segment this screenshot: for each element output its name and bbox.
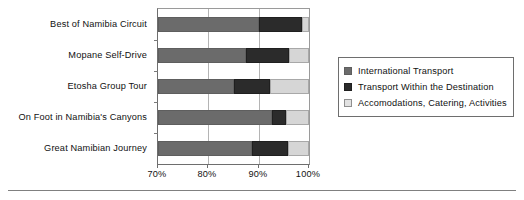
category-axis-labels: Best of Namibia CircuitMopane Self-Drive… [0,8,152,163]
bar-5 [158,141,309,156]
bar-segment [234,79,271,94]
category-label: Etosha Group Tour [0,81,147,91]
x-axis: 70%80%90%100% [157,164,310,186]
x-axis-tick-label: 80% [187,169,227,179]
legend-item: Accomodations, Catering, Activities [344,95,507,111]
stacked-bar-chart-figure: Best of Namibia CircuitMopane Self-Drive… [0,0,524,200]
bar-segment [270,79,309,94]
chart-legend: International TransportTransport Within … [338,57,514,117]
bar-4 [158,110,309,125]
legend-label: Transport Within the Destination [358,82,494,92]
legend-item: International Transport [344,63,507,79]
bar-segment [289,48,309,63]
bar-segment [158,48,246,63]
bar-segment [158,17,259,32]
y-axis-tick [154,133,158,134]
y-axis-tick [154,102,158,103]
bottom-divider-rule [8,190,516,191]
legend-swatch-icon [344,83,352,91]
category-label: Great Namibian Journey [0,143,147,153]
category-label: Best of Namibia Circuit [0,19,147,29]
x-axis-tick [207,164,208,168]
legend-item: Transport Within the Destination [344,79,507,95]
legend-label: International Transport [358,66,453,76]
x-axis-tick-label: 70% [137,169,177,179]
bars-container [158,9,309,164]
plot-area [157,8,310,165]
x-axis-tick [258,164,259,168]
x-axis-tick [157,164,158,168]
category-label: Mopane Self-Drive [0,50,147,60]
category-label: On Foot in Namibia's Canyons [0,112,147,122]
bar-segment [252,141,288,156]
legend-swatch-icon [344,99,352,107]
x-axis-tick-label: 100% [288,169,328,179]
y-axis-tick [154,40,158,41]
bar-segment [158,110,272,125]
bar-3 [158,79,309,94]
legend-label: Accomodations, Catering, Activities [358,98,507,108]
legend-swatch-icon [344,67,352,75]
bar-segment [288,141,309,156]
bar-segment [259,17,302,32]
x-axis-tick [308,164,309,168]
y-axis-tick [154,71,158,72]
bar-segment [158,141,252,156]
bar-segment [158,79,234,94]
bar-segment [286,110,309,125]
bar-1 [158,17,309,32]
bar-segment [246,48,289,63]
bar-segment [302,17,309,32]
bar-2 [158,48,309,63]
x-axis-tick-label: 90% [238,169,278,179]
bar-segment [272,110,286,125]
